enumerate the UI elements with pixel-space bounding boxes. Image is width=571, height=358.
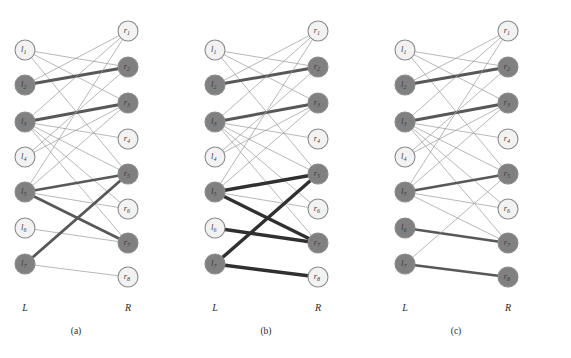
edge-l3-r6 [25,122,128,209]
node-b-r4[interactable]: r4 [308,129,328,149]
node-b-r1[interactable]: r1 [308,21,328,41]
node-subscript: 4 [127,138,130,144]
node-c-r4[interactable]: r4 [498,129,518,149]
node-subscript: 5 [403,191,406,197]
node-subscript: 3 [22,121,26,127]
node-b-r5[interactable]: r5 [308,164,328,184]
node-b-r3[interactable]: r3 [308,93,328,113]
edge-l3-r3 [215,103,318,122]
node-b-l6[interactable]: l6 [205,218,225,238]
node-a-l7[interactable]: l7 [15,254,35,274]
node-subscript: 6 [317,208,320,214]
edge-l7-r5 [25,174,128,264]
node-c-r3[interactable]: r3 [498,93,518,113]
node-a-r4[interactable]: r4 [118,129,138,149]
node-c-r2[interactable]: r2 [498,57,518,77]
node-c-l5[interactable]: l5 [395,182,415,202]
node-c-l4[interactable]: l4 [395,147,415,167]
node-subscript: 5 [127,173,130,179]
node-a-r5[interactable]: r5 [118,164,138,184]
node-a-l4[interactable]: l4 [15,147,35,167]
edge-l7-r8 [25,264,128,277]
node-a-r1[interactable]: r1 [118,21,138,41]
node-subscript: 6 [403,227,406,233]
node-subscript: 8 [507,276,510,282]
node-b-r8[interactable]: r8 [308,267,328,287]
edge-l3-r1 [25,31,128,122]
node-a-l2[interactable]: l2 [15,75,35,95]
edge-l3-r4 [25,122,128,139]
node-a-r7[interactable]: r7 [118,233,138,253]
node-b-l7[interactable]: l7 [205,254,225,274]
node-a-l3[interactable]: l3 [15,112,35,132]
node-subscript: 1 [23,49,26,55]
edge-l2-r2 [405,67,508,85]
node-a-l6[interactable]: l6 [15,218,35,238]
node-subscript: 2 [127,66,130,72]
node-b-r2[interactable]: r2 [308,57,328,77]
edge-l5-r3 [25,103,128,192]
node-subscript: 3 [126,102,130,108]
node-c-r7[interactable]: r7 [498,233,518,253]
node-subscript: 5 [507,173,510,179]
node-c-l6[interactable]: l6 [395,218,415,238]
node-c-l7[interactable]: l7 [395,254,415,274]
node-subscript: 5 [317,173,320,179]
panel-c: l1l2l3l4l5l6l7r1r2r3r4r5r6r7r8LR(c) [395,21,518,337]
edge-l7-r5 [215,174,318,264]
node-subscript: 8 [317,276,320,282]
panel-a: l1l2l3l4l5l6l7r1r2r3r4r5r6r7r8LR(a) [15,21,138,337]
node-b-r7[interactable]: r7 [308,233,328,253]
node-c-r5[interactable]: r5 [498,164,518,184]
panel-caption: (b) [260,326,271,337]
edge-l7-r8 [405,264,508,277]
node-b-l1[interactable]: l1 [205,40,225,60]
edge-l5-r5 [405,174,508,192]
left-set-label: L [211,302,218,313]
edge-l1-r2 [25,50,128,67]
node-c-r1[interactable]: r1 [498,21,518,41]
edge-l2-r2 [25,67,128,85]
node-subscript: 1 [213,49,216,55]
bipartite-graph-figure: l1l2l3l4l5l6l7r1r2r3r4r5r6r7r8LR(a)l1l2l… [0,0,571,358]
panel-b: l1l2l3l4l5l6l7r1r2r3r4r5r6r7r8LR(b) [205,21,328,337]
left-set-label: L [21,302,28,313]
node-c-l2[interactable]: l2 [395,75,415,95]
node-a-r6[interactable]: r6 [118,199,138,219]
node-subscript: 1 [403,49,406,55]
node-subscript: 2 [213,84,216,90]
edge-l5-r6 [405,192,508,209]
figure-svg: l1l2l3l4l5l6l7r1r2r3r4r5r6r7r8LR(a)l1l2l… [0,0,571,358]
node-subscript: 6 [213,227,216,233]
edge-l7-r8 [215,264,318,277]
node-a-r2[interactable]: r2 [118,57,138,77]
node-subscript: 2 [403,84,406,90]
node-c-r6[interactable]: r6 [498,199,518,219]
node-c-r8[interactable]: r8 [498,267,518,287]
node-subscript: 6 [23,227,26,233]
node-a-l5[interactable]: l5 [15,182,35,202]
edge-l5-r1 [215,31,318,192]
node-subscript: 2 [507,66,510,72]
node-subscript: 5 [23,191,26,197]
node-c-l3[interactable]: l3 [395,112,415,132]
node-b-l3[interactable]: l3 [205,112,225,132]
edge-l1-r2 [215,50,318,67]
edge-group [215,31,318,277]
node-a-r8[interactable]: r8 [118,267,138,287]
node-b-l2[interactable]: l2 [205,75,225,95]
node-c-l1[interactable]: l1 [395,40,415,60]
edge-l3-r4 [405,122,508,139]
edge-group [405,31,508,277]
node-a-l1[interactable]: l1 [15,40,35,60]
node-b-l4[interactable]: l4 [205,147,225,167]
node-b-l5[interactable]: l5 [205,182,225,202]
node-b-r6[interactable]: r6 [308,199,328,219]
right-set-label: R [124,302,131,313]
edge-l5-r3 [215,103,318,192]
node-subscript: 1 [317,30,320,36]
edge-group [25,31,128,277]
node-a-r3[interactable]: r3 [118,93,138,113]
node-subscript: 4 [317,138,320,144]
node-subscript: 2 [23,84,26,90]
